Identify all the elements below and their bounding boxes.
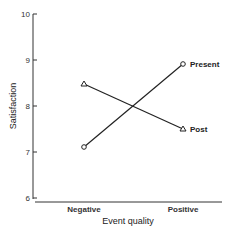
x-tick-label-negative: Negative [67, 205, 101, 214]
series-present [82, 62, 186, 150]
y-axis-title: Satisfaction [8, 83, 18, 130]
chart-canvas: 10 9 8 7 6 Satisfaction Negative Positiv… [0, 0, 245, 237]
y-ticks [33, 14, 37, 198]
y-tick-label-7: 7 [26, 148, 31, 157]
x-tick-label-positive: Positive [168, 205, 199, 214]
line-chart: 10 9 8 7 6 Satisfaction Negative Positiv… [0, 0, 245, 237]
y-tick-label-6: 6 [26, 194, 31, 203]
x-axis-title: Event quality [102, 216, 154, 226]
circle-marker-icon [181, 62, 186, 67]
triangle-marker-icon [81, 81, 87, 86]
y-tick-label-10: 10 [21, 10, 30, 19]
series-post [81, 81, 186, 131]
y-tick-label-8: 8 [26, 102, 31, 111]
series-label-post: Post [190, 125, 208, 134]
y-tick-label-9: 9 [26, 56, 31, 65]
series-label-present: Present [190, 60, 220, 69]
circle-marker-icon [82, 145, 87, 150]
